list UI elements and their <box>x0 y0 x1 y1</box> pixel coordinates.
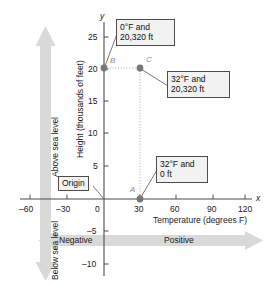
x-axis <box>20 195 252 200</box>
callout-point-b: 0°F and 20,320 ft <box>116 19 175 46</box>
x-tick-label: 90 <box>207 205 216 214</box>
callout-point-c: 32°F and 20,320 ft <box>167 71 230 98</box>
below-sea-level-label: Below sea level <box>51 221 60 280</box>
y-tick-label: 15 <box>88 97 97 106</box>
y-tick-label: 10 <box>88 129 97 138</box>
y-tick-label: –10 <box>82 260 96 269</box>
point-label-a: A <box>130 186 135 194</box>
positive-label: Positive <box>164 236 194 245</box>
data-point-c <box>137 65 144 72</box>
leader-to-point-a <box>141 170 157 197</box>
y-axis-name: y <box>100 12 104 21</box>
point-label-c: C <box>146 56 152 64</box>
coordinate-plane-figure: y x –60 –30 0 30 60 90 120 25 20 15 10 5… <box>0 0 270 284</box>
negative-label: Negative <box>59 236 93 245</box>
point-label-b: B <box>110 57 115 65</box>
y-axis-title: Height (thousands of feet) <box>76 60 85 158</box>
y-tick-label: 25 <box>88 33 97 42</box>
x-tick-label: –30 <box>56 205 70 214</box>
y-tick-label: 20 <box>88 65 97 74</box>
x-tick-label: 30 <box>134 205 143 214</box>
leader-to-origin <box>93 186 104 199</box>
x-axis-title: Temperature (degrees F) <box>153 216 247 225</box>
above-sea-level-label: Above sea level <box>51 117 60 177</box>
callout-point-a: 32°F and 0 ft <box>156 156 208 183</box>
x-tick-label: 0 <box>95 205 100 214</box>
x-tick-label: 120 <box>238 205 252 214</box>
data-point-a <box>137 196 144 203</box>
leader-to-point-c <box>141 69 168 86</box>
x-tick-label: –60 <box>19 205 33 214</box>
x-axis-name: x <box>256 194 260 203</box>
y-tick-label: 5 <box>93 162 98 171</box>
data-point-b <box>101 65 108 72</box>
x-tick-label: 60 <box>170 205 179 214</box>
callout-origin: Origin <box>58 176 89 191</box>
